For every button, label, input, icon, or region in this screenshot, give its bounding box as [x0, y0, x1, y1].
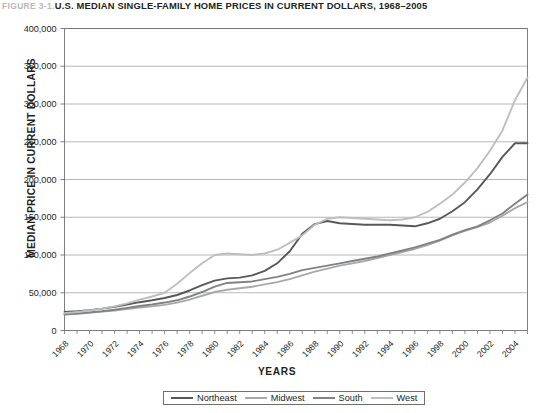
figure-chart: FIGURE 3-1.U.S. MEDIAN SINGLE-FAMILY HOM…: [0, 0, 554, 413]
y-tick-label: 300,000: [0, 99, 57, 109]
series-line-midwest: [65, 202, 528, 314]
y-tick-label: 100,000: [0, 250, 57, 260]
legend-label: Northeast: [197, 393, 237, 403]
legend-item-south: South: [313, 393, 363, 403]
y-tick-label: 400,000: [0, 24, 57, 34]
legend-swatch-northeast: [171, 397, 193, 399]
legend-label: Midwest: [271, 393, 305, 403]
legend-label: West: [397, 393, 418, 403]
legend-swatch-midwest: [245, 397, 267, 399]
series-line-south: [65, 195, 528, 315]
chart-legend: NortheastMidwestSouthWest: [163, 391, 425, 405]
legend-swatch-west: [371, 397, 393, 399]
legend-item-northeast: Northeast: [171, 393, 237, 403]
y-tick-label: 150,000: [0, 212, 57, 222]
y-tick-label: 50,000: [0, 288, 57, 298]
plot-area: 050,000100,000150,000200,000250,000300,0…: [0, 0, 554, 372]
legend-label: South: [339, 393, 363, 403]
y-tick-label: 250,000: [0, 137, 57, 147]
y-tick-label: 350,000: [0, 61, 57, 71]
legend-item-midwest: Midwest: [245, 393, 305, 403]
legend-item-west: West: [371, 393, 418, 403]
legend-swatch-south: [313, 397, 335, 399]
y-tick-label: 200,000: [0, 175, 57, 185]
y-tick-label: 0: [0, 326, 57, 336]
series-line-northeast: [65, 143, 528, 312]
plot-svg: [0, 0, 554, 372]
